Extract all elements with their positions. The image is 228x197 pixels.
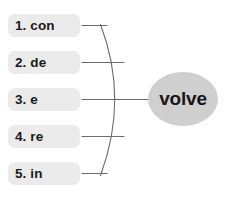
prefix-item-2[interactable]: 2. de xyxy=(8,51,80,74)
diagram-canvas: 1. con 2. de 3. e 4. re 5. in volve xyxy=(0,0,228,197)
prefix-item-3[interactable]: 3. e xyxy=(8,88,80,111)
prefix-item-label: 4. re xyxy=(8,129,43,144)
prefix-item-label: 5. in xyxy=(8,166,43,181)
prefix-item-1[interactable]: 1. con xyxy=(8,14,80,37)
prefix-item-label: 2. de xyxy=(8,55,46,70)
brace-curve xyxy=(101,25,115,176)
root-word-label: volve xyxy=(159,88,207,110)
root-word-node[interactable]: volve xyxy=(148,72,218,126)
prefix-item-4[interactable]: 4. re xyxy=(8,125,80,148)
prefix-item-5[interactable]: 5. in xyxy=(8,162,80,185)
prefix-item-label: 1. con xyxy=(8,18,55,33)
prefix-item-label: 3. e xyxy=(8,92,38,107)
